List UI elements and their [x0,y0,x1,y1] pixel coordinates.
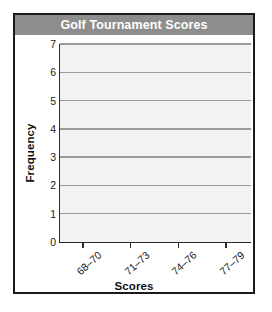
y-axis-tick-label: 6 [37,65,56,79]
chart-header-bar: Golf Tournament Scores [15,15,253,35]
bar-series [60,44,251,242]
chart-card: Golf Tournament Scores Frequency 0123456… [13,13,255,294]
y-axis-tick-label: 3 [37,150,56,164]
y-axis-tick-label: 0 [37,235,56,249]
x-axis-title: Scores [15,278,253,294]
x-axis-tick-labels: 68–7071–7374–7677–79 [59,248,250,282]
y-axis-title-text: Frequency [24,123,36,182]
y-axis-tick-label: 5 [37,94,56,108]
y-axis-tick-label: 1 [37,207,56,221]
y-axis-tick-label: 7 [37,37,56,51]
y-axis-tick-label: 4 [37,122,56,136]
plot-area [59,44,251,243]
chart-title: Golf Tournament Scores [15,15,253,35]
y-axis-tick-label: 2 [37,178,56,192]
y-axis-title: Frequency [23,93,37,213]
y-axis-tick-labels: 01234567 [37,44,56,242]
